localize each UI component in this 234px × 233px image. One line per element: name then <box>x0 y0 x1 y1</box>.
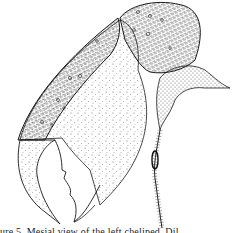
merus-segment <box>152 66 230 228</box>
figure-caption: ure 5. Mesial view of the left cheliped.… <box>0 226 234 233</box>
cheliped-illustration <box>0 0 234 233</box>
fixed-finger <box>18 140 60 224</box>
